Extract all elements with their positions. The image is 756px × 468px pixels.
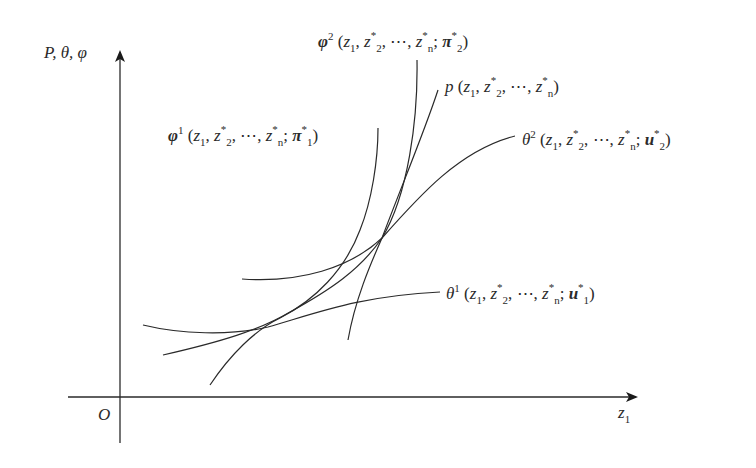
phi2-label: φ2 (z1, z*2, ⋯, z*n; π*2) <box>318 33 468 50</box>
theta1-label: θ1 (z1, z*2, ⋯, z*n; u*1) <box>446 285 595 302</box>
phi1-label: φ1 (z1, z*2, ⋯, z*n; π*1) <box>168 127 318 144</box>
phi1-curve <box>210 128 378 385</box>
y-axis-label: P, θ, φ <box>44 44 87 61</box>
p-label: p (z1, z*2, ⋯, z*n) <box>445 78 559 95</box>
diagram-canvas <box>0 0 756 468</box>
theta2-curve <box>242 136 515 280</box>
theta1-curve <box>143 292 440 333</box>
theta2-label: θ2 (z1, z*2, ⋯, z*n; u*2) <box>522 131 671 148</box>
x-axis-label: z1 <box>618 404 630 421</box>
phi2-curve <box>163 60 417 355</box>
origin-label: O <box>98 406 110 423</box>
